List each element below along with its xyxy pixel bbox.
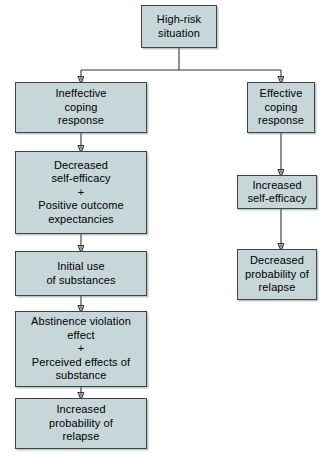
flowchart-canvas: High-risk situation Ineffective coping r… [0, 0, 330, 456]
node-label: Decreased probability of relapse [242, 254, 312, 295]
node-decreased-self-efficacy[interactable]: Decreased self-efficacy + Positive outco… [15, 151, 147, 234]
node-label: Ineffective coping response [52, 87, 109, 128]
node-increased-self-efficacy[interactable]: Increased self-efficacy [237, 175, 317, 209]
node-ineffective-coping-response[interactable]: Ineffective coping response [15, 82, 147, 133]
node-initial-use-of-substances[interactable]: Initial use of substances [15, 251, 147, 296]
node-high-risk-situation[interactable]: High-risk situation [141, 5, 217, 48]
node-label: High-risk situation [154, 13, 204, 40]
node-increased-probability-of-relapse[interactable]: Increased probability of relapse [15, 398, 147, 449]
node-label: Increased probability of relapse [46, 403, 116, 444]
node-effective-coping-response[interactable]: Effective coping response [247, 82, 315, 133]
node-label: Initial use of substances [43, 260, 118, 287]
node-abstinence-violation-effect[interactable]: Abstinence violation effect + Perceived … [15, 311, 147, 387]
node-decreased-probability-of-relapse[interactable]: Decreased probability of relapse [237, 249, 317, 300]
node-label: Increased self-efficacy [244, 179, 309, 206]
node-label: Effective coping response [255, 87, 307, 128]
node-label: Abstinence violation effect + Perceived … [28, 315, 134, 383]
node-label: Decreased self-efficacy + Positive outco… [35, 159, 126, 227]
